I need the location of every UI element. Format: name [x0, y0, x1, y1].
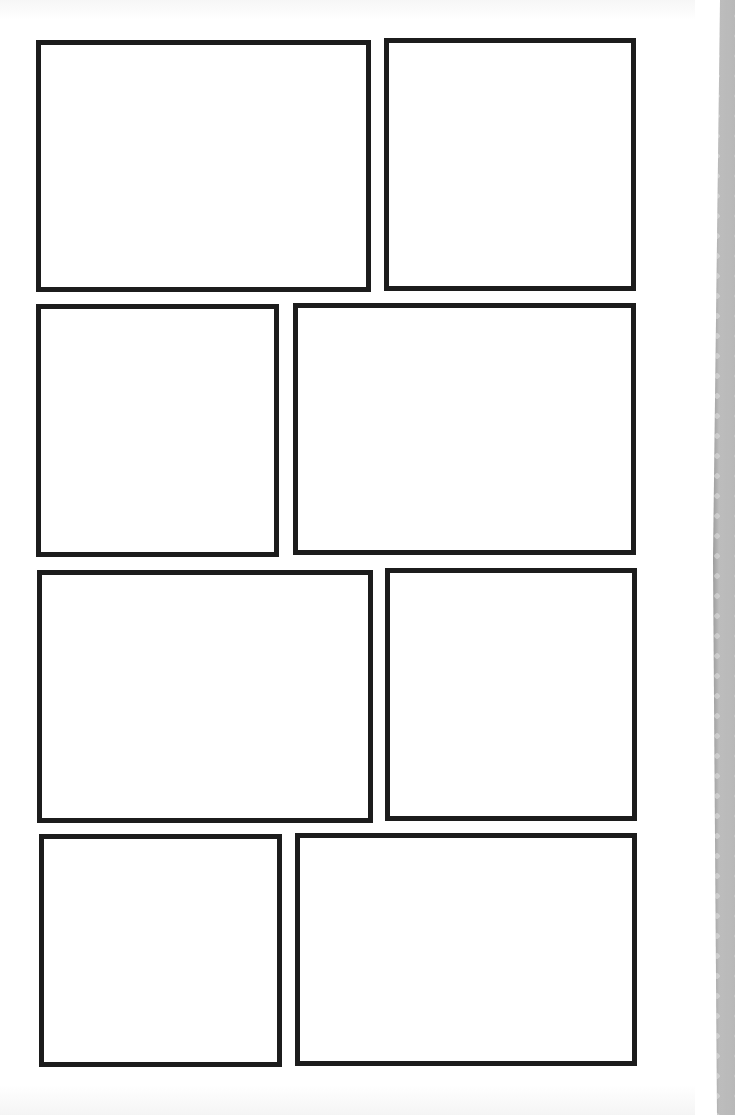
panel-3 — [36, 304, 279, 557]
panel-8 — [295, 833, 637, 1066]
comic-page — [0, 0, 735, 1115]
panel-1 — [36, 40, 371, 292]
panel-7 — [39, 834, 282, 1067]
panel-4 — [293, 303, 636, 555]
spine-highlight — [695, 0, 735, 1115]
page-bleed-top — [0, 0, 695, 20]
page-bleed-bottom — [0, 1085, 695, 1115]
panel-6 — [385, 568, 637, 821]
book-spine-edge — [695, 0, 735, 1115]
panel-5 — [37, 570, 373, 823]
panel-2 — [384, 38, 636, 291]
